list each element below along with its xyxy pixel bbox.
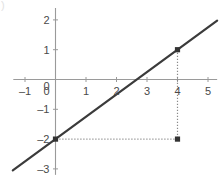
chart-container: ) –1012345 210–1–2–3 [0,0,222,180]
y-tick-label: –1 [37,104,49,115]
x-tick-label: 2 [113,86,119,97]
x-tick-label: 1 [83,86,89,97]
data-point-marker [53,137,58,142]
y-tick-label: –2 [37,134,49,145]
data-point-marker [175,137,180,142]
x-tick-label: 4 [174,86,180,97]
y-tick-label: 1 [43,44,49,55]
plot-area [0,0,222,180]
data-point-marker [175,47,180,52]
y-tick-label: –3 [37,163,49,174]
y-tick-label: 2 [43,14,49,25]
x-tick-label: 3 [144,86,150,97]
x-tick-label: –1 [19,86,31,97]
x-tick-label: 5 [205,86,211,97]
y-tick-label: 0 [43,80,49,91]
